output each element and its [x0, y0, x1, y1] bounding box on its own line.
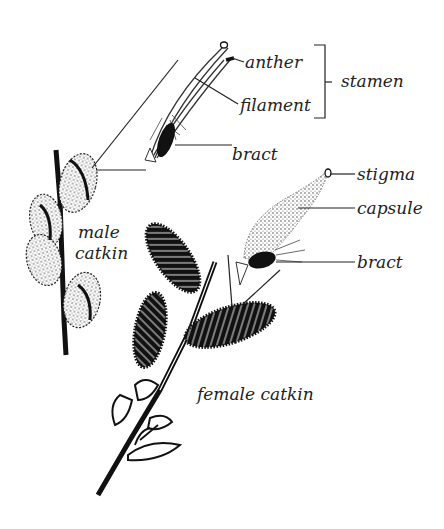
label-bract-female: bract [357, 254, 403, 271]
label-filament: filament [240, 97, 311, 114]
female-flower-detail [236, 169, 331, 285]
label-anther: anther [245, 54, 302, 71]
label-stigma: stigma [357, 166, 415, 183]
label-capsule: capsule [357, 200, 423, 217]
label-bract-male: bract [232, 146, 278, 163]
male-flower-detail [145, 42, 234, 162]
label-female-catkin: female catkin [197, 386, 314, 403]
label-male-catkin-line2: catkin [75, 245, 128, 262]
label-stamen: stamen [341, 73, 404, 90]
label-male-catkin-line1: male [78, 224, 120, 241]
